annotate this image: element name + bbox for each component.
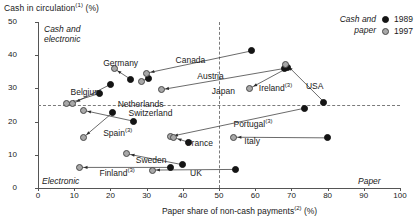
country-label-sweden: Sweden xyxy=(136,155,167,165)
reference-line-vertical xyxy=(219,22,220,188)
x-tick-mark xyxy=(110,188,111,191)
country-label-text: Ireland xyxy=(259,83,285,93)
quadrant-label-electronic: Electronic xyxy=(42,176,79,186)
trend-arrowhead xyxy=(165,87,169,90)
data-point-netherlands-1997[interactable] xyxy=(69,100,76,107)
country-label-canada: Canada xyxy=(176,55,206,65)
x-tick-mark xyxy=(328,188,329,191)
country-label-belgium: Belgium xyxy=(71,87,102,97)
quadrant-label-cash-and-electronic: Cash and electronic xyxy=(44,24,80,44)
y-tick-label: 0 xyxy=(0,183,17,192)
trend-arrowhead xyxy=(76,99,80,102)
y-tick-label: 40 xyxy=(0,50,17,59)
legend-label-1997: 1997 xyxy=(394,26,413,36)
legend-title: Cash and paper xyxy=(320,14,376,36)
chart-title-unit: (%) xyxy=(83,3,99,13)
trend-arrowhead xyxy=(253,83,257,86)
data-point-italy-1989[interactable] xyxy=(324,134,331,141)
data-point-switzerland-1997[interactable] xyxy=(80,107,87,114)
data-point-italy-1997[interactable] xyxy=(230,134,237,141)
country-label-text: Sweden xyxy=(136,155,167,165)
x-tick-label: 20 xyxy=(98,191,122,200)
data-point-spain-1989[interactable] xyxy=(109,109,116,116)
data-point-canada-1997[interactable] xyxy=(143,70,150,77)
y-tick-label: 30 xyxy=(0,83,17,92)
x-axis-label-unit: (%) xyxy=(302,206,318,216)
y-tick-label: 20 xyxy=(0,117,17,126)
x-tick-mark xyxy=(147,188,148,191)
chart-title-footnote: (1) xyxy=(75,2,83,8)
x-tick-mark xyxy=(38,188,39,191)
y-tick-mark xyxy=(35,155,38,156)
x-tick-mark xyxy=(400,188,401,191)
data-point-finland-1997[interactable] xyxy=(76,164,83,171)
x-tick-mark xyxy=(364,188,365,191)
x-tick-label: 50 xyxy=(207,191,231,200)
trend-arrowhead xyxy=(131,154,135,157)
data-point-uk-1989[interactable] xyxy=(232,166,239,173)
x-tick-mark xyxy=(183,188,184,191)
data-point-spain-1997[interactable] xyxy=(80,134,87,141)
data-point-ireland-1997[interactable] xyxy=(246,85,253,92)
country-label-text: Austria xyxy=(197,71,223,81)
x-tick-label: 100 xyxy=(388,191,412,200)
country-label-text: Belgium xyxy=(71,87,102,97)
data-point-portugal-1989[interactable] xyxy=(301,105,308,112)
legend-item-1989: 1989 xyxy=(382,14,413,24)
data-point-finland-1989[interactable] xyxy=(167,164,174,171)
country-label-japan: Japan xyxy=(212,86,235,96)
data-point-uk-1997[interactable] xyxy=(149,167,156,174)
legend: Cash and paper 1989 1997 xyxy=(320,14,413,36)
legend-entries: 1989 1997 xyxy=(382,14,413,36)
country-label-footnote: (3) xyxy=(265,118,272,124)
x-tick-label: 0 xyxy=(26,191,50,200)
y-tick-mark xyxy=(35,55,38,56)
country-label-portugal: Portugal(3) xyxy=(233,118,272,129)
data-point-switzerland-1989[interactable] xyxy=(130,118,137,125)
country-label-usa: USA xyxy=(306,81,323,91)
data-point-sweden-1989[interactable] xyxy=(179,161,186,168)
country-label-text: Switzerland xyxy=(129,108,173,118)
chart-title: Cash in circulation(1) (%) xyxy=(4,2,99,13)
x-tick-label: 40 xyxy=(171,191,195,200)
x-axis-label-text: Paper share of non-cash payments xyxy=(162,206,294,216)
trend-arrowhead xyxy=(156,168,160,171)
data-point-usa-1989[interactable] xyxy=(320,99,327,106)
y-tick-mark xyxy=(35,88,38,89)
x-tick-label: 70 xyxy=(279,191,303,200)
country-label-ireland: Ireland(3) xyxy=(259,82,292,93)
data-point-canada-1989[interactable] xyxy=(248,47,255,54)
x-tick-label: 90 xyxy=(352,191,376,200)
x-tick-label: 60 xyxy=(243,191,267,200)
x-tick-mark xyxy=(291,188,292,191)
x-axis-label: Paper share of non-cash payments(2) (%) xyxy=(0,205,419,216)
quadrant-line1: Electronic xyxy=(42,176,79,186)
country-label-italy: Italy xyxy=(244,136,260,146)
x-axis-label-footnote: (2) xyxy=(294,205,301,211)
country-label-text: France xyxy=(186,138,212,148)
data-point-netherlands-1989[interactable] xyxy=(107,81,114,88)
trend-arrowhead xyxy=(151,70,155,73)
country-label-text: Finland xyxy=(100,168,128,178)
trend-arrowhead xyxy=(178,138,182,141)
data-point-austria-1997[interactable] xyxy=(138,78,145,85)
data-point-france-1997[interactable] xyxy=(170,134,177,141)
y-tick-label: 10 xyxy=(0,150,17,159)
data-point-sweden-1997[interactable] xyxy=(123,150,130,157)
trend-arrowhead xyxy=(84,166,88,169)
country-label-footnote: (3) xyxy=(285,82,292,88)
cash-circulation-scatter-chart: Cash in circulation(1) (%) 01020304050 0… xyxy=(0,0,419,220)
data-point-japan-1997[interactable] xyxy=(158,86,165,93)
legend-title-line1: Cash and xyxy=(320,14,376,25)
country-label-france: France xyxy=(186,138,212,148)
trend-arrowhead xyxy=(117,71,121,74)
data-point-germany-1989[interactable] xyxy=(127,76,134,83)
country-label-text: Portugal xyxy=(233,119,265,129)
quadrant-label-paper: Paper xyxy=(358,176,381,186)
quadrant-line1: Cash and xyxy=(44,24,80,34)
country-label-text: Italy xyxy=(244,136,260,146)
country-label-text: Germany xyxy=(103,58,138,68)
country-label-text: Canada xyxy=(176,55,206,65)
country-label-footnote: (3) xyxy=(125,127,132,133)
country-label-germany: Germany xyxy=(103,58,138,68)
